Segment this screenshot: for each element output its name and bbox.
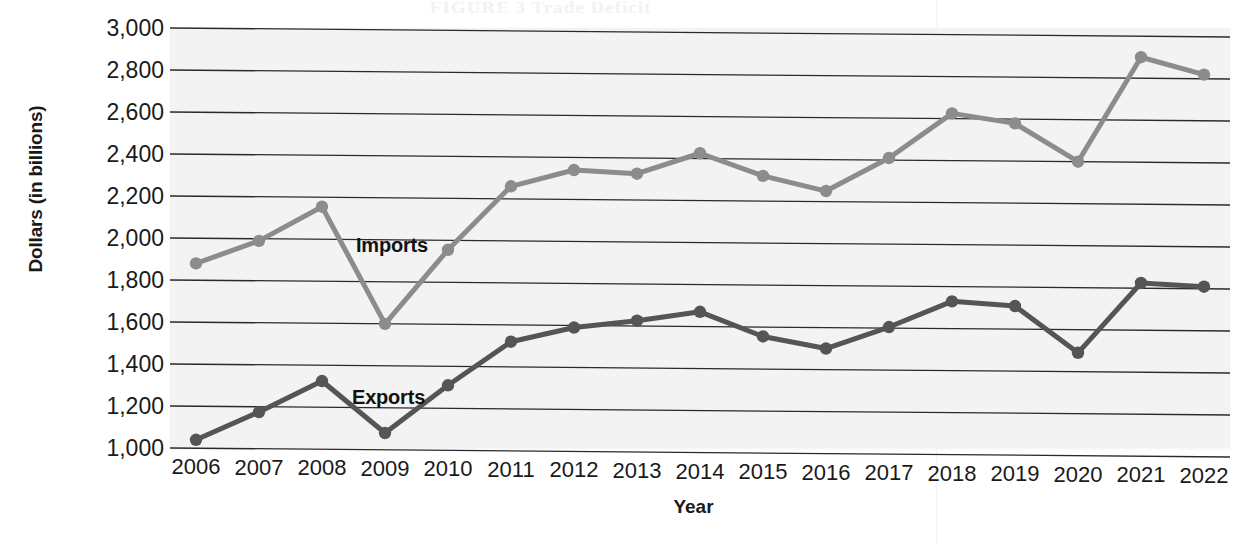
data-point[interactable]	[1009, 117, 1021, 129]
x-tick-label: 2020	[1054, 462, 1103, 488]
gridline	[170, 364, 1230, 373]
series-layer	[190, 51, 1210, 446]
data-point[interactable]	[1072, 347, 1084, 359]
x-tick-label: 2012	[550, 457, 599, 483]
data-point[interactable]	[1009, 300, 1021, 312]
x-axis-tick-labels: 2006200720082009201020112012201320142015…	[170, 452, 1230, 486]
data-point[interactable]	[316, 375, 328, 387]
data-point[interactable]	[883, 152, 895, 164]
gridline	[170, 280, 1230, 289]
x-tick-label: 2014	[676, 459, 725, 485]
scan-bleedthrough-text: FIGURE 3 Trade Deficit	[430, 0, 1130, 21]
series-line	[196, 57, 1204, 324]
x-axis-title: Year	[0, 496, 1257, 518]
y-tick-label: 1,800	[44, 267, 164, 294]
data-point[interactable]	[253, 406, 265, 418]
data-point[interactable]	[1072, 156, 1084, 168]
x-tick-label: 2011	[487, 457, 534, 483]
plot-area: Imports Exports	[170, 28, 1230, 448]
data-point[interactable]	[694, 306, 706, 318]
data-point[interactable]	[190, 434, 202, 446]
data-point[interactable]	[820, 185, 832, 197]
x-tick-label: 2015	[739, 459, 788, 485]
data-point[interactable]	[316, 201, 328, 213]
data-point[interactable]	[505, 180, 517, 192]
data-point[interactable]	[883, 321, 895, 333]
data-point[interactable]	[757, 330, 769, 342]
data-point[interactable]	[568, 321, 580, 333]
x-tick-label: 2013	[613, 458, 662, 484]
y-tick-label: 2,400	[44, 141, 164, 168]
chart-page: FIGURE 3 Trade Deficit 2006 Dollars (in …	[0, 0, 1257, 546]
data-point[interactable]	[568, 164, 580, 176]
data-point[interactable]	[946, 295, 958, 307]
series-exports	[190, 277, 1210, 446]
data-point[interactable]	[505, 336, 517, 348]
x-tick-label: 2006	[172, 454, 221, 480]
data-point[interactable]	[253, 235, 265, 247]
gridline	[170, 196, 1230, 205]
x-tick-label: 2017	[865, 460, 914, 486]
x-tick-label: 2022	[1180, 463, 1229, 489]
series-label-exports: Exports	[352, 386, 425, 409]
y-tick-label: 1,600	[44, 309, 164, 336]
data-point[interactable]	[820, 342, 832, 354]
y-tick-label: 1,200	[44, 393, 164, 420]
y-tick-label: 2,600	[44, 99, 164, 126]
data-point[interactable]	[694, 147, 706, 159]
x-tick-label: 2008	[298, 455, 347, 481]
y-axis-tick-labels: 3,0002,8002,6002,4002,2002,0001,8001,600…	[44, 0, 164, 546]
x-tick-label: 2019	[991, 461, 1040, 487]
data-point[interactable]	[1198, 280, 1210, 292]
data-point[interactable]	[379, 318, 391, 330]
data-point[interactable]	[631, 168, 643, 180]
x-tick-label: 2021	[1117, 462, 1166, 488]
data-point[interactable]	[1198, 68, 1210, 80]
x-tick-label: 2007	[235, 455, 284, 481]
data-point[interactable]	[442, 244, 454, 256]
x-tick-label: 2016	[802, 460, 851, 486]
x-tick-label: 2010	[424, 456, 473, 482]
data-point[interactable]	[379, 427, 391, 439]
data-point[interactable]	[190, 257, 202, 269]
data-point[interactable]	[1135, 277, 1147, 289]
data-point[interactable]	[442, 379, 454, 391]
x-axis-title-text: Year	[673, 496, 713, 517]
y-tick-label: 2,200	[44, 183, 164, 210]
series-label-imports: Imports	[356, 234, 428, 257]
y-tick-label: 2,000	[44, 225, 164, 252]
x-tick-label: 2018	[928, 461, 977, 487]
data-point[interactable]	[946, 107, 958, 119]
data-point[interactable]	[1135, 51, 1147, 63]
gridline	[170, 112, 1230, 121]
gridline	[170, 406, 1230, 415]
gridline	[170, 28, 1230, 37]
chart-svg	[170, 28, 1230, 448]
y-tick-label: 1,400	[44, 351, 164, 378]
gridline	[170, 70, 1230, 79]
y-tick-label: 1,000	[44, 435, 164, 462]
data-point[interactable]	[631, 315, 643, 327]
y-tick-label: 3,000	[44, 15, 164, 42]
gridline	[170, 238, 1230, 247]
gridline	[170, 322, 1230, 331]
x-tick-label: 2009	[361, 456, 410, 482]
gridlines	[170, 28, 1230, 457]
y-tick-label: 2,800	[44, 57, 164, 84]
data-point[interactable]	[757, 170, 769, 182]
